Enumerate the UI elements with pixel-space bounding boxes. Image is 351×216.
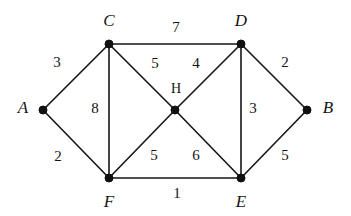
graph-node-f (105, 174, 113, 182)
graph-node-e (237, 174, 245, 182)
graph-node-a (39, 106, 47, 114)
graph-node-c (105, 40, 113, 48)
graph-edge-e-b (241, 110, 307, 178)
graph-node-d (237, 40, 245, 48)
graph-edge-c-h (109, 44, 175, 110)
graph-node-h (171, 106, 179, 114)
graph-edge-a-c (43, 44, 109, 110)
graph-figure: 327854235615ABCDEFH (0, 0, 351, 216)
graph-node-b (303, 106, 311, 114)
graph-edge-h-e (175, 110, 241, 178)
graph-edge-f-h (109, 110, 175, 178)
graph-canvas (0, 0, 351, 216)
graph-edge-a-f (43, 110, 109, 178)
graph-edge-d-b (241, 44, 307, 110)
graph-edge-d-h (175, 44, 241, 110)
nodes-layer (39, 40, 311, 182)
